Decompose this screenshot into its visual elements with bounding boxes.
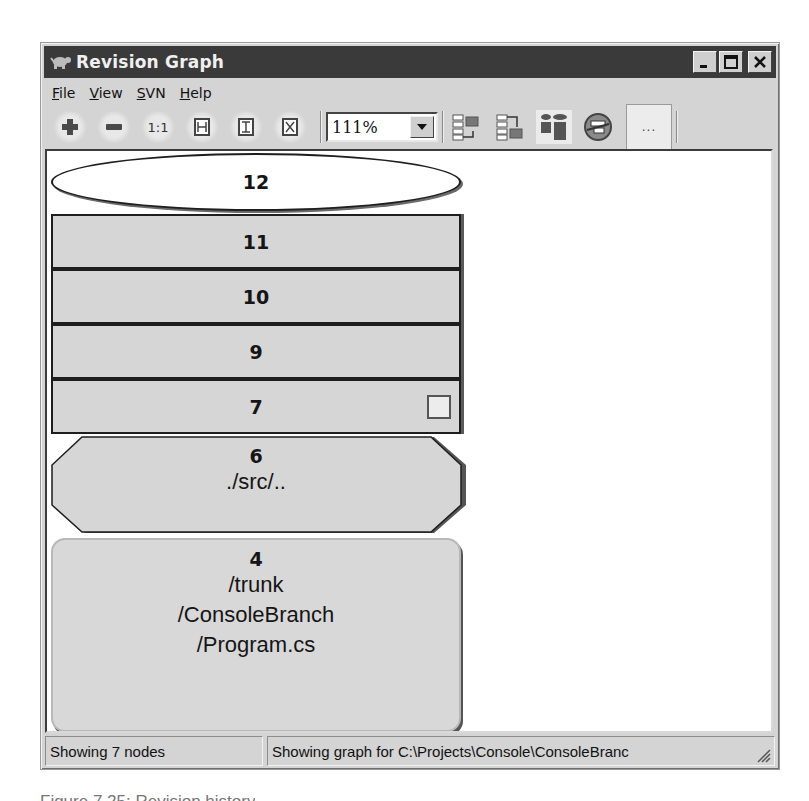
toolbar: 1:1 111%: [44, 106, 776, 148]
node-path-line: /trunk: [53, 570, 459, 600]
close-icon: [753, 55, 767, 69]
revision-number: 12: [243, 171, 269, 193]
zoom-level-combo[interactable]: 111%: [326, 112, 438, 142]
status-bar: Showing 7 nodes Showing graph for C:\Pro…: [45, 735, 775, 767]
node-path-line: /ConsoleBranch: [53, 600, 459, 630]
status-graph-path: Showing graph for C:\Projects\Console\Co…: [267, 736, 775, 766]
revision-number: 9: [249, 341, 262, 363]
node-path-line: /Program.cs: [53, 630, 459, 660]
more-options-button[interactable]: ...: [626, 104, 672, 150]
zoom-dropdown-button[interactable]: [410, 116, 434, 138]
revision-node-4[interactable]: 4 /trunk /ConsoleBranch /Program.cs: [51, 538, 461, 732]
revision-node-11[interactable]: 11: [51, 214, 461, 269]
menu-file[interactable]: File: [52, 85, 75, 101]
title-bar[interactable]: Revision Graph: [44, 46, 776, 78]
menu-svn[interactable]: SVN: [137, 85, 166, 101]
zoom-level-value: 111%: [328, 118, 378, 137]
figure-caption: Figure 7.25: Revision history: [40, 788, 255, 801]
menu-help[interactable]: Help: [180, 85, 212, 101]
fit-width-icon: [194, 118, 210, 136]
revision-number: 7: [249, 396, 262, 418]
filter-icon: [583, 112, 613, 142]
revision-number: 10: [243, 286, 269, 308]
node-path: ./src/..: [51, 467, 461, 497]
revision-node-7[interactable]: 7: [51, 379, 461, 434]
menu-bar: File View SVN Help: [44, 81, 776, 105]
window-title: Revision Graph: [76, 52, 224, 72]
maximize-icon: [724, 55, 738, 69]
zoom-out-icon: [105, 118, 123, 136]
toolbar-separator: [676, 111, 678, 143]
revision-node-10[interactable]: 10: [51, 269, 461, 324]
group-branches-icon: [451, 113, 481, 141]
revision-node-6[interactable]: 6 ./src/..: [51, 435, 461, 535]
zoom-in-button[interactable]: [52, 111, 88, 143]
toolbar-separator: [320, 111, 322, 143]
resize-grip-icon[interactable]: [755, 747, 771, 763]
group-branches-button[interactable]: [448, 110, 484, 144]
align-trees-button[interactable]: [536, 110, 572, 144]
zoom-100-button[interactable]: 1:1: [140, 111, 176, 143]
revision-number: 4: [53, 548, 459, 570]
node-expand-marker[interactable]: [427, 395, 451, 419]
fit-height-button[interactable]: [228, 111, 264, 143]
minimize-icon: [699, 56, 711, 68]
oldest-on-top-button[interactable]: [492, 110, 528, 144]
oldest-on-top-icon: [495, 113, 525, 141]
fit-width-button[interactable]: [184, 111, 220, 143]
tortoise-icon: [50, 52, 72, 72]
maximize-button[interactable]: [719, 51, 743, 73]
close-button[interactable]: [748, 51, 772, 73]
menu-view[interactable]: View: [89, 85, 122, 101]
fit-all-icon: [282, 118, 298, 136]
window-controls: [693, 51, 772, 73]
minimize-button[interactable]: [693, 51, 717, 73]
zoom-in-icon: [61, 118, 79, 136]
fit-height-icon: [238, 118, 254, 136]
revision-graph-window: Revision Graph File View SVN Help: [40, 42, 780, 770]
status-node-count: Showing 7 nodes: [45, 736, 263, 766]
revision-number: 6: [51, 445, 461, 467]
fit-all-button[interactable]: [272, 111, 308, 143]
filter-button[interactable]: [580, 110, 616, 144]
revision-node-12[interactable]: 12: [51, 153, 461, 211]
align-trees-icon: [539, 113, 569, 141]
node-content: 6 ./src/..: [51, 445, 461, 497]
revision-number: 11: [243, 231, 269, 253]
zoom-out-button[interactable]: [96, 111, 132, 143]
graph-canvas[interactable]: 12 11 10 9 7 6 ./src/.. 4 /trunk: [45, 149, 773, 733]
toolbar-separator: [442, 111, 444, 143]
chevron-down-icon: [417, 124, 427, 130]
revision-node-9[interactable]: 9: [51, 324, 461, 379]
zoom-100-label: 1:1: [148, 120, 169, 135]
